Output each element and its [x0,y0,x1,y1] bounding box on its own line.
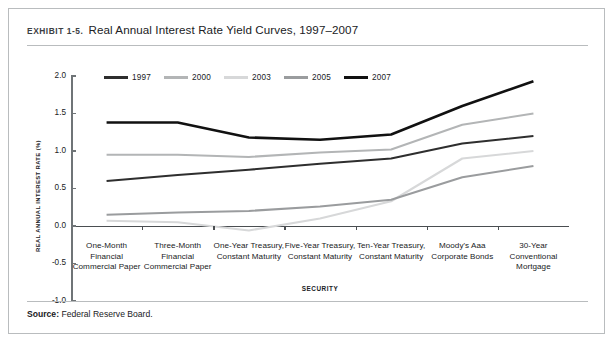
x-axis-label-line: Commercial Paper [73,262,141,271]
x-axis-label-4: Ten-Year Treasury,Constant Maturity [356,241,427,273]
x-axis-label-6: 30-YearConventionalMortgage [498,241,569,273]
y-axis-tick [71,263,76,264]
x-axis-label-line: Financial [90,252,123,261]
y-axis-tick-label: 1.5 [35,108,66,117]
x-axis-label-1: Three-MonthFinancialCommercial Paper [142,241,213,273]
x-axis-label-line: Moody's Aaa [439,241,486,250]
x-axis-label-line: Ten-Year Treasury, [357,241,425,250]
series-line-2005 [107,166,534,215]
exhibit-title: Real Annual Interest Rate Yield Curves, … [88,23,358,36]
x-axis-label-line: Mortgage [516,262,551,271]
x-axis-title: SECURITY [71,285,569,292]
x-axis-tick [356,226,357,230]
y-axis-tick [71,225,76,226]
x-axis-label-5: Moody's AaaCorporate Bonds [427,241,498,273]
y-axis-tick-label: 0.5 [35,183,66,192]
x-axis-label-line: One-Year Treasury, [214,241,285,250]
y-axis-tick [71,113,76,114]
x-axis-label-2: One-Year Treasury,Constant Maturity [213,241,284,273]
y-axis-tick-label: 2.0 [35,71,66,80]
chart-plot-area: 19972000200320052007 REAL ANNUAL INTERES… [9,45,606,300]
y-axis-tick-label: -0.5 [35,258,66,267]
y-axis-tick-label: 0.0 [35,221,66,230]
y-axis-tick-label: 1.0 [35,146,66,155]
x-axis-label-line: 30-Year [519,241,547,250]
series-line-2007 [107,81,534,140]
series-line-2000 [107,114,534,158]
source-label: Source: [27,309,59,319]
x-axis-label-line: Five-Year Treasury, [285,241,356,250]
exhibit-number-label: EXHIBIT 1-5. [27,26,83,36]
x-axis-label-line: Corporate Bonds [431,252,493,261]
x-axis-label-line: Conventional [509,252,557,261]
x-axis-tick [498,226,499,230]
y-axis-tick-label: -1.0 [35,296,66,305]
x-axis-label-line: One-Month [86,241,127,250]
x-axis-label-line: Constant Maturity [288,252,352,261]
x-axis-tick [284,226,285,230]
x-axis-tick [142,226,143,230]
x-axis-tick [427,226,428,230]
x-axis-category-labels: One-MonthFinancialCommercial PaperThree-… [71,241,569,273]
x-axis-label-line: Constant Maturity [359,252,423,261]
x-axis-label-line: Commercial Paper [144,262,212,271]
x-axis-tick [213,226,214,230]
exhibit-header: EXHIBIT 1-5.Real Annual Interest Rate Yi… [9,9,604,45]
x-axis-label-0: One-MonthFinancialCommercial Paper [71,241,142,273]
x-axis-label-line: Constant Maturity [217,252,281,261]
y-axis-tick [71,150,76,151]
y-axis-tick [71,75,76,76]
y-axis-tick [71,188,76,189]
exhibit-container: EXHIBIT 1-5.Real Annual Interest Rate Yi… [8,8,605,334]
x-axis-label-line: Financial [161,252,194,261]
x-axis-label-line: Three-Month [154,241,201,250]
footer-divider [27,301,588,302]
x-axis-label-3: Five-Year Treasury,Constant Maturity [284,241,355,273]
source-text: Federal Reserve Board. [61,309,152,319]
source-note: Source: Federal Reserve Board. [27,309,153,319]
